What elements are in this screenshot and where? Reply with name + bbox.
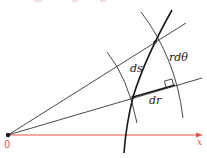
- origin-label: 0: [4, 139, 10, 150]
- dr-label: dr: [149, 94, 162, 107]
- lower-ray: [8, 78, 202, 135]
- upper-intersection-point: [153, 40, 156, 43]
- rdtheta-label: rdθ: [169, 51, 188, 64]
- lower-intersection-point: [131, 95, 134, 98]
- cropped-heading-remnant: [34, 0, 106, 2]
- x-axis-label: x: [197, 137, 202, 147]
- polar-arc-length-diagram: ds rdθ dr x 0: [0, 0, 207, 158]
- origin-point: [6, 133, 10, 137]
- ds-label: ds: [130, 62, 143, 75]
